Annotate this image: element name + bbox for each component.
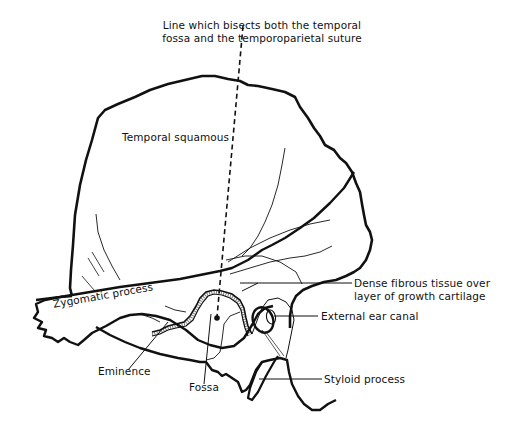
label-eminence: Eminence: [98, 365, 151, 378]
squamous-contour-right: [242, 148, 285, 256]
label-dense-fibrous-1: Dense fibrous tissue over: [354, 277, 490, 290]
zygomatic-upper-border: [36, 172, 354, 300]
squamous-hatch-1: [92, 252, 104, 272]
diagram-drawing: [0, 0, 515, 440]
squamous-contour-left: [96, 214, 120, 280]
zygomatic-contour-1: [165, 306, 186, 312]
label-bisect-line-2: fossa and the temporoparietal suture: [146, 32, 378, 45]
leader-dense-fibrous-diag: [242, 283, 258, 291]
leader-fossa: [204, 314, 211, 384]
fibrous-contour-1: [230, 246, 332, 274]
label-temporal-squamous: Temporal squamous: [122, 131, 229, 144]
temporal-bone-diagram: Line which bisects both the temporal fos…: [0, 0, 515, 440]
label-bisect-line-1: Line which bisects both the temporal: [146, 19, 378, 32]
label-styloid-process: Styloid process: [324, 373, 405, 386]
squamous-hatch-3: [82, 276, 94, 290]
articular-cartilage-outer: [152, 290, 252, 334]
label-dense-fibrous-2: layer of growth cartilage: [354, 290, 486, 303]
label-external-ear-canal: External ear canal: [321, 310, 418, 323]
fibrous-contour-2: [226, 256, 302, 284]
label-fossa: Fossa: [189, 381, 219, 394]
bisecting-dashed-line: [217, 26, 243, 317]
fossa-center-dot: [214, 315, 220, 321]
fossa-contour: [206, 312, 240, 360]
postglenoid-hatch-2: [266, 332, 284, 356]
